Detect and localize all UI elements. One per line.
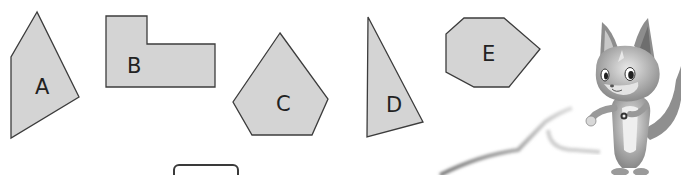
shape-label-c: C xyxy=(276,92,291,116)
answer-box[interactable] xyxy=(173,164,239,175)
fox-mascot-icon xyxy=(586,18,681,175)
shape-d[interactable]: D xyxy=(367,17,423,137)
shape-label-a: A xyxy=(35,75,50,99)
shape-b[interactable]: B xyxy=(106,16,215,87)
shapes-canvas: A B C D E xyxy=(0,0,681,175)
shape-label-b: B xyxy=(127,54,141,78)
shape-e[interactable]: E xyxy=(446,18,540,87)
speech-bubble-swoosh xyxy=(440,108,600,175)
shape-c[interactable]: C xyxy=(233,33,328,135)
shape-label-e: E xyxy=(482,42,495,66)
shape-a[interactable]: A xyxy=(11,12,79,138)
shape-label-d: D xyxy=(386,93,402,117)
